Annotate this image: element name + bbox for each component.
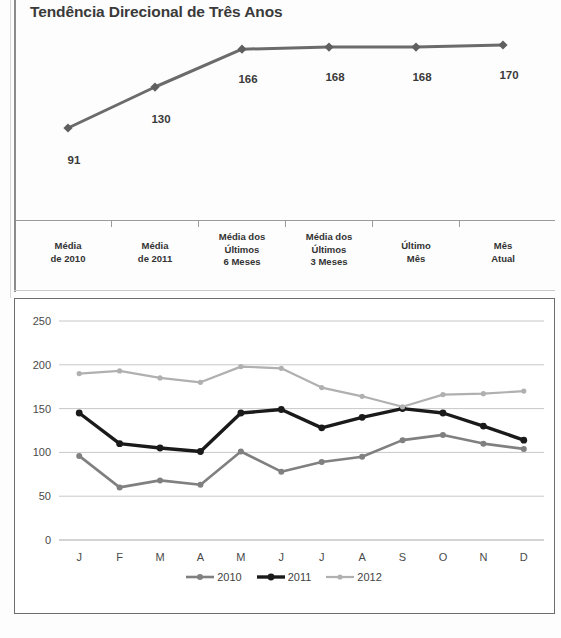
monthly-y-tick-label: 0 bbox=[19, 534, 51, 546]
monthly-data-point bbox=[359, 414, 366, 421]
category-axis-tick bbox=[372, 220, 373, 227]
monthly-data-point bbox=[157, 375, 162, 380]
category-axis-band: Médiade 2010Médiade 2011Média dosÚltimos… bbox=[16, 218, 555, 292]
monthly-line-svg bbox=[15, 299, 552, 611]
monthly-chart-panel: 050100150200250 JFMAMJJASOND 20102011201… bbox=[14, 298, 555, 614]
category-axis-tick bbox=[111, 220, 112, 227]
category-label: Média dosÚltimos6 Meses bbox=[219, 231, 265, 269]
legend-label: 2011 bbox=[288, 571, 312, 583]
monthly-y-tick-label: 200 bbox=[19, 359, 51, 371]
monthly-data-point bbox=[360, 394, 365, 399]
monthly-data-point bbox=[359, 454, 365, 460]
category-label-line: Últimos bbox=[306, 244, 352, 257]
monthly-data-point bbox=[521, 446, 527, 452]
category-label-line: 3 Meses bbox=[306, 256, 352, 269]
monthly-data-point bbox=[76, 453, 82, 459]
monthly-data-point bbox=[117, 484, 123, 490]
trend-value-label: 130 bbox=[151, 113, 170, 125]
monthly-data-point bbox=[237, 410, 244, 417]
monthly-x-tick-label: J bbox=[279, 551, 285, 563]
category-label: ÚltimoMês bbox=[401, 240, 431, 265]
monthly-x-tick-label: F bbox=[116, 551, 123, 563]
trend-value-label: 168 bbox=[325, 71, 344, 83]
monthly-chart-plot-area: 050100150200250 JFMAMJJASOND bbox=[15, 299, 552, 611]
trend-data-point bbox=[324, 43, 333, 52]
monthly-x-tick-label: M bbox=[155, 551, 164, 563]
monthly-data-point bbox=[319, 459, 325, 465]
category-label-line: Média dos bbox=[306, 231, 352, 244]
monthly-data-point bbox=[117, 368, 122, 373]
monthly-data-point bbox=[279, 366, 284, 371]
legend-swatch-2012 bbox=[325, 571, 355, 583]
monthly-x-tick-label: S bbox=[399, 551, 406, 563]
trend-value-label: 91 bbox=[68, 154, 81, 166]
monthly-data-point bbox=[440, 392, 445, 397]
trend-chart-plot-area bbox=[16, 0, 555, 220]
monthly-data-point bbox=[76, 410, 83, 417]
category-label-line: 6 Meses bbox=[219, 256, 265, 269]
monthly-data-point bbox=[77, 371, 82, 376]
monthly-data-point bbox=[440, 410, 447, 417]
trend-data-point bbox=[150, 82, 159, 91]
monthly-data-point bbox=[238, 364, 243, 369]
category-label: Média dosÚltimos3 Meses bbox=[306, 231, 352, 269]
monthly-data-point bbox=[480, 441, 486, 447]
monthly-x-tick-label: D bbox=[520, 551, 528, 563]
monthly-data-point bbox=[520, 437, 527, 444]
category-label-line: Média dos bbox=[219, 231, 265, 244]
monthly-series-group bbox=[76, 364, 527, 490]
monthly-chart-legend: 201020112012 bbox=[15, 571, 552, 583]
trend-chart-panel: Tendência Direcional de Três Anos 911301… bbox=[16, 0, 555, 220]
monthly-series-line-2012 bbox=[79, 367, 524, 407]
category-label-line: Últimos bbox=[219, 244, 265, 257]
monthly-x-tick-label: M bbox=[236, 551, 245, 563]
legend-item-2010[interactable]: 2010 bbox=[185, 571, 241, 583]
trend-marker-group bbox=[63, 40, 507, 132]
monthly-data-point bbox=[400, 404, 405, 409]
category-label-line: Atual bbox=[491, 253, 515, 266]
monthly-data-point bbox=[238, 449, 244, 455]
category-axis-tick bbox=[198, 220, 199, 227]
monthly-y-tick-label: 100 bbox=[19, 446, 51, 458]
category-label-line: Mês bbox=[491, 240, 515, 253]
monthly-data-point bbox=[198, 380, 203, 385]
category-label-line: de 2010 bbox=[51, 253, 86, 266]
monthly-x-tick-label: O bbox=[439, 551, 448, 563]
monthly-data-point bbox=[481, 391, 486, 396]
monthly-data-point bbox=[400, 437, 406, 443]
monthly-data-point bbox=[197, 448, 204, 455]
category-label-line: Último bbox=[401, 240, 431, 253]
trend-data-point bbox=[411, 43, 420, 52]
trend-data-point bbox=[498, 40, 507, 49]
category-label: Médiade 2011 bbox=[138, 240, 172, 265]
legend-item-2011[interactable]: 2011 bbox=[256, 571, 312, 583]
legend-item-2012[interactable]: 2012 bbox=[325, 571, 381, 583]
monthly-x-tick-label: A bbox=[197, 551, 204, 563]
monthly-data-point bbox=[440, 432, 446, 438]
category-label-line: Média bbox=[51, 240, 86, 253]
category-label-line: Média bbox=[138, 240, 172, 253]
scanned-report-page: Tendência Direcional de Três Anos 911301… bbox=[0, 0, 561, 638]
legend-label: 2010 bbox=[217, 571, 241, 583]
monthly-x-tick-label: J bbox=[76, 551, 82, 563]
category-label: MêsAtual bbox=[491, 240, 515, 265]
monthly-data-point bbox=[157, 477, 163, 483]
trend-line-svg bbox=[16, 0, 555, 220]
monthly-data-point bbox=[278, 469, 284, 475]
trend-value-label: 170 bbox=[499, 69, 518, 81]
monthly-data-point bbox=[197, 482, 203, 488]
category-label-line: de 2011 bbox=[138, 253, 172, 266]
monthly-data-point bbox=[157, 445, 164, 452]
trend-data-point bbox=[237, 45, 246, 54]
category-axis-tick bbox=[285, 220, 286, 227]
monthly-series-line-2011 bbox=[79, 409, 524, 452]
monthly-series-line-2010 bbox=[79, 435, 524, 488]
monthly-x-tick-label: N bbox=[479, 551, 487, 563]
monthly-data-point bbox=[318, 424, 325, 431]
monthly-x-tick-label: A bbox=[358, 551, 365, 563]
monthly-y-tick-label: 150 bbox=[19, 403, 51, 415]
category-band-separator bbox=[14, 290, 555, 291]
monthly-data-point bbox=[521, 388, 526, 393]
category-axis-tick bbox=[459, 220, 460, 227]
category-label: Médiade 2010 bbox=[51, 240, 86, 265]
